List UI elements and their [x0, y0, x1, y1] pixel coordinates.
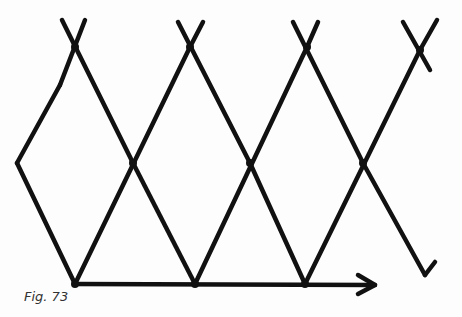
arrow-right-icon: [75, 275, 375, 294]
lattice-line: [17, 85, 60, 163]
lattice-line: [250, 163, 305, 284]
lattice-node: [71, 280, 79, 288]
figure-canvas: Fig. 73: [0, 0, 462, 317]
figure-caption: Fig. 73: [24, 289, 68, 304]
lattice-diagram: [0, 0, 462, 317]
lattice-node: [301, 280, 309, 288]
lattice-node: [129, 159, 137, 167]
lattice-node: [416, 46, 424, 54]
lattice-line: [420, 20, 437, 50]
lattice-node: [186, 43, 194, 51]
lattice-line: [133, 163, 195, 284]
lattice-node: [191, 280, 199, 288]
lattice-node: [71, 43, 79, 51]
lattice-node: [246, 159, 254, 167]
lattice-line: [307, 22, 318, 47]
lattice-line: [425, 262, 435, 275]
lattice-line: [17, 163, 75, 284]
lattice-line: [60, 20, 85, 85]
lattice-node: [359, 159, 367, 167]
lattice-line: [293, 22, 363, 163]
lattice-line: [62, 20, 133, 163]
lattice-node: [303, 43, 311, 51]
lattice-line: [178, 22, 250, 163]
lattice-line: [190, 22, 203, 47]
lattice-line: [403, 22, 430, 70]
lattice-line: [363, 163, 425, 275]
